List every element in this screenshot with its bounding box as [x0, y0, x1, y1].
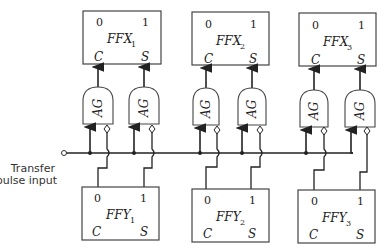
svg-text:FFX: FFX: [322, 35, 349, 49]
svg-text:2: 2: [240, 42, 245, 51]
svg-text:FFY: FFY: [105, 208, 132, 222]
svg-text:S: S: [357, 53, 365, 67]
svg-text:C: C: [92, 225, 101, 239]
svg-text:0: 0: [312, 19, 319, 32]
svg-text:1: 1: [358, 19, 365, 32]
ffx2-box: 0 1 FFX2 C S: [192, 12, 269, 66]
svg-text:1: 1: [130, 216, 135, 225]
and-gate-3: AG: [193, 68, 219, 125]
ffx1-box: 0 1 FFX1 C S: [83, 11, 161, 64]
diamond-icon: [104, 125, 110, 133]
diamond-icon: [321, 127, 327, 135]
pulse-connections: [88, 127, 353, 155]
svg-text:0: 0: [204, 194, 211, 207]
svg-text:3: 3: [346, 219, 351, 228]
svg-text:1: 1: [250, 18, 257, 31]
svg-text:C: C: [203, 227, 212, 241]
svg-text:1: 1: [357, 195, 364, 208]
svg-text:0: 0: [94, 192, 101, 205]
svg-text:AG: AG: [245, 99, 259, 119]
transfer-label-line2: pulse input: [0, 174, 58, 187]
svg-text:AG: AG: [199, 99, 213, 119]
diamond-icon: [214, 126, 220, 134]
ffy3-box: 0 1 FFY3 C S: [298, 190, 375, 243]
and-gate-1: AG: [83, 67, 113, 124]
svg-text:C: C: [311, 53, 320, 67]
svg-text:C: C: [94, 50, 103, 64]
svg-text:FFY: FFY: [215, 210, 242, 224]
diamond-icon: [149, 125, 155, 133]
svg-text:S: S: [140, 225, 148, 239]
svg-text:FFX: FFX: [215, 34, 242, 48]
svg-text:AG: AG: [137, 98, 151, 118]
ffy2-box: 0 1 FFY2 C S: [192, 189, 269, 242]
svg-text:1: 1: [131, 40, 136, 49]
svg-text:AG: AG: [353, 101, 367, 121]
svg-text:3: 3: [347, 43, 352, 52]
svg-text:FFX: FFX: [106, 32, 133, 46]
diamond-icon: [364, 127, 370, 135]
svg-text:C: C: [204, 52, 213, 66]
ffy1-box: 0 1 FFY1 C S: [82, 187, 159, 240]
svg-text:1: 1: [249, 194, 256, 207]
svg-text:0: 0: [96, 16, 103, 29]
and-gate-4: AG: [238, 68, 266, 125]
svg-text:1: 1: [140, 192, 147, 205]
svg-text:FFY: FFY: [321, 211, 348, 225]
input-terminal-icon: [62, 151, 67, 156]
level-connections: [98, 125, 370, 190]
and-gate-5: AG: [300, 69, 328, 127]
transfer-circuit-diagram: Transfer pulse input 0 1 FFX1 C S 0 1 FF…: [0, 0, 390, 252]
diamond-icon: [257, 126, 263, 134]
svg-text:0: 0: [311, 195, 318, 208]
ffx3-box: 0 1 FFX3 C S: [299, 13, 376, 67]
and-gate-6: AG: [345, 69, 375, 127]
svg-text:S: S: [141, 50, 149, 64]
svg-text:AG: AG: [91, 98, 105, 118]
svg-text:C: C: [309, 228, 318, 242]
svg-text:S: S: [249, 52, 257, 66]
and-gate-2: AG: [129, 67, 159, 124]
svg-text:AG: AG: [307, 101, 321, 121]
svg-text:1: 1: [142, 16, 149, 29]
svg-text:0: 0: [205, 18, 212, 31]
svg-text:2: 2: [240, 218, 245, 227]
svg-text:S: S: [356, 228, 364, 242]
svg-text:S: S: [248, 227, 256, 241]
